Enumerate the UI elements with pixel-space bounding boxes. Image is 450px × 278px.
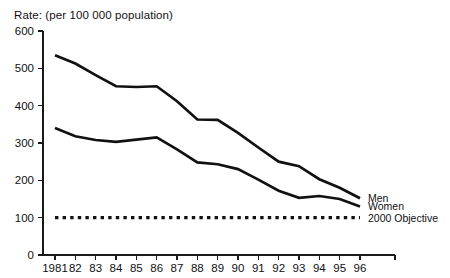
y-tick-label: 500 — [15, 62, 34, 74]
y-tick-label: 200 — [15, 174, 34, 186]
x-tick-label: 93 — [293, 262, 306, 274]
x-axis-ticks: 1981828384858687888990919293949596 — [42, 255, 395, 274]
y-axis-ticks: 0100200300400500600 — [15, 25, 43, 261]
series-line-men — [55, 55, 360, 198]
x-tick-label: 94 — [313, 262, 326, 274]
y-tick-label: 300 — [15, 137, 34, 149]
series-line-women — [55, 128, 360, 206]
chart-container: Rate: (per 100 000 population) 010020030… — [0, 0, 450, 278]
x-tick-label: 91 — [252, 262, 265, 274]
x-tick-label: 88 — [191, 262, 204, 274]
y-tick-label: 100 — [15, 212, 34, 224]
line-chart-plot: 0100200300400500600 19818283848586878889… — [0, 0, 450, 278]
legend-label-2000-objective: 2000 Objective — [368, 212, 438, 224]
x-tick-label: 89 — [211, 262, 224, 274]
x-tick-label: 96 — [354, 262, 367, 274]
chart-legend: MenWomen2000 Objective — [368, 192, 438, 223]
x-tick-label: 87 — [171, 262, 184, 274]
y-tick-label: 600 — [15, 25, 34, 37]
x-tick-label: 85 — [130, 262, 143, 274]
x-tick-label: 86 — [150, 262, 163, 274]
legend-label-women: Women — [368, 200, 404, 212]
y-tick-label: 0 — [28, 249, 34, 261]
x-tick-label: 1981 — [42, 262, 68, 274]
x-tick-label: 95 — [333, 262, 346, 274]
x-tick-label: 83 — [89, 262, 102, 274]
x-tick-label: 84 — [110, 262, 123, 274]
x-tick-label: 92 — [272, 262, 285, 274]
y-tick-label: 400 — [15, 100, 34, 112]
x-tick-label: 90 — [232, 262, 245, 274]
series-group — [55, 55, 360, 217]
x-tick-label: 82 — [69, 262, 82, 274]
